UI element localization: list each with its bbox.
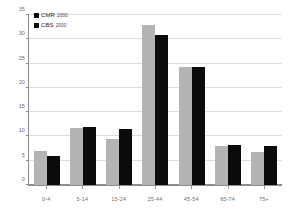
x-axis-labels: 0-45-1415-2425-4445-5465-7475+	[28, 196, 282, 202]
x-tick-mark	[228, 186, 229, 189]
bar-group	[174, 15, 210, 185]
x-tick-mark	[264, 186, 265, 189]
bar-group	[65, 15, 101, 185]
x-tick-mark	[191, 186, 192, 189]
plot-area: 05101520253035	[28, 15, 282, 186]
bar	[119, 129, 132, 185]
x-axis-tick-marks	[28, 186, 282, 190]
bar	[215, 146, 228, 185]
y-tick-label: 15	[19, 103, 25, 109]
x-tick-mark	[155, 186, 156, 189]
bar-group	[246, 15, 282, 185]
legend-label: CMR	[41, 12, 55, 18]
legend-year: 2000	[56, 23, 67, 28]
x-tick-cell	[173, 186, 209, 190]
bar-chart: 05101520253035 0-45-1415-2425-4445-5465-…	[0, 0, 290, 217]
x-tick-cell	[101, 186, 137, 190]
x-tick-mark	[82, 186, 83, 189]
x-tick-label: 0-4	[28, 196, 64, 202]
x-tick-cell	[28, 186, 64, 190]
x-tick-cell	[209, 186, 245, 190]
x-tick-label: 15-24	[101, 196, 137, 202]
bar	[264, 146, 277, 185]
y-tick-label: 10	[19, 127, 25, 133]
legend-swatch-icon	[34, 23, 39, 28]
y-tick-label: 35	[19, 6, 25, 12]
bar	[142, 25, 155, 185]
x-tick-mark	[46, 186, 47, 189]
bar	[106, 139, 119, 185]
bar	[70, 128, 83, 185]
bar	[155, 35, 168, 185]
bar	[34, 151, 47, 185]
x-tick-cell	[246, 186, 282, 190]
x-tick-label: 25-44	[137, 196, 173, 202]
x-tick-cell	[64, 186, 100, 190]
legend-year: 2000	[57, 13, 68, 18]
bar	[83, 127, 96, 185]
y-tick-label: 0	[22, 176, 25, 182]
y-tick-label: 30	[19, 30, 25, 36]
x-tick-label: 75+	[246, 196, 282, 202]
legend-item: CBS2000	[34, 21, 68, 29]
bar-group	[137, 15, 173, 185]
y-tick-label: 20	[19, 79, 25, 85]
x-tick-cell	[137, 186, 173, 190]
legend: CMR2000CBS2000	[34, 11, 68, 31]
x-tick-label: 65-74	[209, 196, 245, 202]
bar-group	[210, 15, 246, 185]
bar	[179, 67, 192, 185]
bar	[47, 156, 60, 185]
bar	[192, 67, 205, 185]
bar	[251, 152, 264, 185]
bar-group	[29, 15, 65, 185]
legend-item: CMR2000	[34, 11, 68, 19]
x-tick-mark	[119, 186, 120, 189]
bars-layer	[29, 15, 282, 185]
x-tick-label: 5-14	[64, 196, 100, 202]
x-tick-label: 45-54	[173, 196, 209, 202]
legend-label: CBS	[41, 22, 54, 28]
bar-group	[101, 15, 137, 185]
bar	[228, 145, 241, 185]
legend-swatch-icon	[34, 13, 39, 18]
y-tick-label: 5	[22, 152, 25, 158]
y-tick-label: 25	[19, 55, 25, 61]
